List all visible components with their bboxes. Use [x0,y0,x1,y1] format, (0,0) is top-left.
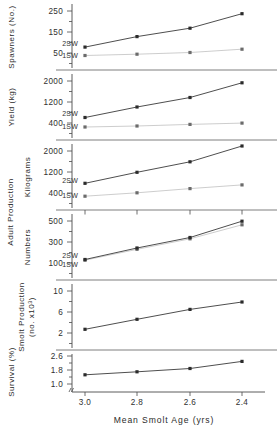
panel2-point-2sw-3 [240,81,243,84]
panel-spawners: 250 150 50 Spawners (No.) 2SW 1SW [7,4,277,70]
panel1-point-2sw-1 [135,35,138,38]
panel6-point-3 [240,360,243,363]
panel4-point-2sw-3 [240,220,243,223]
panel-adult-production-numbers: 500 300 100 Numbers 2SW 1SW [23,210,277,280]
panel3-point-1sw-0 [83,195,86,198]
panel2-legend-2sw: 2SW [62,110,78,117]
panel4-point-2sw-1 [135,246,138,249]
panel1-legend-2sw: 2SW [62,40,78,47]
xtick-label-1: 2.8 [131,398,143,407]
panel1-point-1sw-0 [83,54,86,57]
panel3-legend-2sw: 2SW [62,177,78,184]
panel6-axis-break-icon [69,388,74,392]
panel6-ytick-label-1.8: 1.8 [51,366,63,375]
panel2-ytick-label-400: 400 [48,119,63,128]
panel6-point-2 [188,367,191,370]
panel1-point-2sw-0 [83,46,86,49]
panel2-series-2sw-line [85,83,242,118]
panel1-point-1sw-1 [135,53,138,56]
panel3-ytick-label-1200: 1200 [44,168,64,177]
panel3-point-2sw-1 [135,171,138,174]
panel3-point-2sw-2 [188,160,191,163]
panel5-ytick-label-10: 10 [53,287,63,296]
panel3-point-1sw-2 [188,187,191,190]
panel4-series-2sw-line [85,221,242,259]
panel1-point-1sw-3 [240,48,243,51]
panel5-series-line [85,302,242,329]
panel2-point-2sw-0 [83,116,86,119]
panel2-point-1sw-2 [188,123,191,126]
panel2-ytick-label-2000: 2000 [44,77,64,86]
panel3-ytick-label-400: 400 [48,189,63,198]
panel-adult-production-kilograms: 2000 1200 400 Kilograms 2SW 1SW [23,144,277,210]
panel3-point-2sw-3 [240,144,243,147]
panel3-point-2sw-0 [83,182,86,185]
panel5-point-0 [83,328,86,331]
xtick-label-0: 3.0 [79,398,91,407]
panel6-ytick-label-1.0: 1.0 [51,380,63,389]
panel3-series-2sw-line [85,146,242,183]
panel6-point-0 [83,373,86,376]
panel-survival: 2.6 1.8 1.0 Survival (%) 3.0 2.8 2.6 2.4 [7,347,265,407]
panel1-point-2sw-2 [188,27,191,30]
panel1-point-2sw-3 [240,12,243,15]
panel1-series-1sw-line [85,49,242,55]
panel4-legend-1sw: 1SW [62,261,78,268]
panel1-legend-1sw: 1SW [62,52,78,59]
x-axis-title: Mean Smolt Age (yrs) [114,415,215,425]
panel5-point-3 [240,300,243,303]
panel6-ytick-label-2.6: 2.6 [51,352,63,361]
panel2-series-1sw-line [85,123,242,127]
figure-canvas: 250 150 50 Spawners (No.) 2SW 1SW [0,0,277,429]
panel1-ytick-label-150: 150 [48,28,63,37]
panel3-point-1sw-1 [135,191,138,194]
xtick-label-3: 2.4 [236,398,248,407]
panel2-point-2sw-1 [135,105,138,108]
panel2-legend-1sw: 1SW [62,123,78,130]
panel3-point-1sw-3 [240,183,243,186]
panel-smolt-production: 10 6 2 Smolt Production (no. x103) [17,282,277,352]
panel-yield: 2000 1200 400 Yield (kg) 2SW 1SW [7,74,277,140]
panel6-point-1 [135,370,138,373]
panel1-y-axis-title: Spawners (No.) [7,5,16,68]
panel2-point-1sw-1 [135,124,138,127]
panel4-ytick-label-500: 500 [48,217,63,226]
panel1-series-2sw-line [85,14,242,47]
panel4-legend-2sw: 2SW [62,252,78,259]
panel5-point-1 [135,318,138,321]
panel4-y-axis-title: Numbers [23,229,32,265]
panel2-y-axis-title: Yield (kg) [7,88,16,127]
panel5-y-axis-title-line1: Smolt Production [17,282,26,352]
panel3-legend-1sw: 1SW [62,192,78,199]
panel1-point-1sw-2 [188,51,191,54]
panel5-ytick-label-2: 2 [58,329,63,338]
multi-panel-figure: 250 150 50 Spawners (No.) 2SW 1SW [0,0,277,429]
panel4-point-2sw-2 [188,236,191,239]
xtick-label-2: 2.6 [184,398,196,407]
panel5-y-axis-title-line2: (no. x103) [27,297,36,337]
panel2-point-1sw-3 [240,122,243,125]
panel2-point-2sw-2 [188,96,191,99]
group-label-adult-production: Adult Production [6,178,15,246]
panel4-point-1sw-3 [240,223,243,226]
panel6-series-line [85,361,242,374]
panel6-y-axis-title: Survival (%) [7,347,16,397]
panel3-series-1sw-line [85,185,242,196]
panel3-ytick-label-2000: 2000 [44,147,64,156]
panel3-y-axis-title: Kilograms [23,157,32,198]
panel4-point-2sw-0 [83,258,86,261]
panel1-ytick-label-250: 250 [48,7,63,16]
panel4-ytick-label-300: 300 [48,238,63,247]
panel2-ytick-label-1200: 1200 [44,98,64,107]
panel2-point-1sw-0 [83,125,86,128]
panel5-point-2 [188,308,191,311]
panel5-ytick-label-6: 6 [58,308,63,317]
panel4-ytick-label-100: 100 [48,259,63,268]
